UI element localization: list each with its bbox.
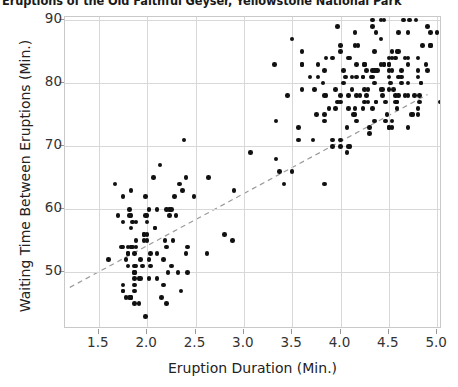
data-point [395, 49, 400, 54]
data-point [143, 194, 148, 199]
data-point [354, 75, 359, 80]
data-point [322, 93, 327, 98]
data-point [248, 150, 253, 155]
data-point [132, 289, 137, 294]
data-point [416, 68, 421, 73]
gridline-horizontal [65, 146, 440, 147]
data-point [164, 301, 169, 306]
data-point [367, 131, 372, 136]
data-point [346, 93, 351, 98]
data-point [354, 62, 359, 67]
data-point [364, 68, 369, 73]
data-point [396, 75, 401, 80]
data-point [285, 93, 290, 98]
data-point [322, 68, 327, 73]
data-point [192, 194, 197, 199]
data-point [322, 119, 327, 124]
data-point [330, 56, 335, 61]
data-point [147, 207, 152, 212]
data-point [147, 276, 152, 281]
data-point [296, 138, 301, 143]
data-point [206, 175, 211, 180]
data-point [338, 144, 343, 149]
data-point [396, 30, 401, 35]
data-point [296, 125, 301, 130]
data-point [127, 207, 132, 212]
x-tick-label: 4.0 [329, 334, 350, 350]
data-point [155, 207, 160, 212]
data-point [300, 87, 305, 92]
data-point [345, 150, 350, 155]
x-tick-label: 2.0 [135, 334, 156, 350]
data-point [391, 87, 396, 92]
data-point [155, 276, 160, 281]
x-tick-label: 4.5 [377, 334, 398, 350]
data-point [401, 18, 406, 23]
data-point [338, 93, 343, 98]
data-point [169, 264, 174, 269]
data-point [322, 112, 327, 117]
y-tick-label: 50 [45, 262, 62, 278]
data-point [406, 125, 411, 130]
data-point [164, 245, 169, 250]
data-point [322, 182, 327, 187]
data-point [132, 301, 137, 306]
data-point [126, 251, 131, 256]
y-axis-label: Waiting Time Between Eruptions (Min.) [17, 11, 33, 341]
data-point [372, 81, 377, 86]
plot-area [64, 16, 441, 328]
data-point [106, 257, 111, 262]
data-point [335, 24, 340, 29]
data-point [161, 257, 166, 262]
chart-title: Eruptions of the Old Faithful Geyser, Ye… [0, 0, 458, 8]
gridline-vertical [99, 17, 100, 327]
data-point [387, 125, 392, 130]
data-point [155, 251, 160, 256]
data-point [367, 125, 372, 130]
data-point [230, 238, 235, 243]
data-point [167, 213, 172, 218]
data-point [343, 75, 348, 80]
data-point [380, 93, 385, 98]
data-point [353, 106, 358, 111]
data-point [205, 251, 210, 256]
data-point [416, 112, 421, 117]
data-point [396, 93, 401, 98]
data-point [132, 276, 137, 281]
gridline-horizontal [65, 272, 440, 273]
data-point [379, 87, 384, 92]
x-tick-label: 5.0 [425, 334, 446, 350]
data-point [161, 283, 166, 288]
data-point [428, 30, 433, 35]
data-point [185, 245, 190, 250]
x-tick-label: 3.0 [232, 334, 253, 350]
data-point [314, 112, 319, 117]
scatter-chart: Eruptions of the Old Faithful Geyser, Ye… [0, 0, 458, 387]
data-point [425, 68, 430, 73]
data-point [372, 49, 377, 54]
y-tick-label: 90 [45, 10, 62, 26]
data-point [338, 49, 343, 54]
data-point [184, 175, 189, 180]
data-point [416, 106, 421, 111]
x-axis-label: Eruption Duration (Min.) [64, 360, 441, 376]
data-point [346, 144, 351, 149]
data-point [147, 257, 152, 262]
data-point [151, 175, 156, 180]
data-point [428, 43, 433, 48]
gridline-vertical [244, 17, 245, 327]
data-point [350, 87, 355, 92]
y-tick-label: 80 [45, 73, 62, 89]
data-point [399, 68, 404, 73]
data-point [129, 188, 134, 193]
data-point [184, 251, 189, 256]
gridline-vertical [341, 17, 342, 327]
data-point [177, 182, 182, 187]
data-point [338, 43, 343, 48]
data-point [417, 93, 422, 98]
data-point [143, 213, 148, 218]
data-point [395, 106, 400, 111]
data-point [438, 100, 441, 105]
data-point [370, 106, 375, 111]
data-point [134, 238, 139, 243]
